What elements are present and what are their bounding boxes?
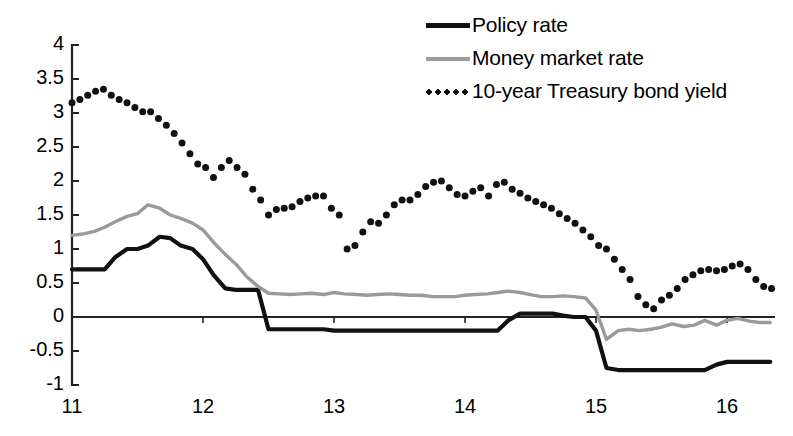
data-point: [84, 92, 91, 99]
legend-item-policy-rate: Policy rate: [424, 8, 784, 41]
data-point: [320, 192, 327, 199]
data-point: [336, 212, 343, 219]
data-point: [351, 242, 358, 249]
y-axis-tick-label: 2: [53, 168, 64, 191]
data-point: [249, 186, 256, 193]
x-axis-tick-label: 15: [582, 395, 610, 418]
data-point: [210, 174, 217, 181]
data-point: [155, 115, 162, 122]
data-point: [139, 108, 146, 115]
data-point: [744, 266, 751, 273]
data-point: [721, 266, 728, 273]
data-point: [265, 212, 272, 219]
data-point: [383, 212, 390, 219]
solid-gray-line-swatch: [424, 50, 472, 66]
data-point: [524, 195, 531, 202]
data-point: [100, 86, 107, 93]
data-point: [124, 99, 131, 106]
data-point: [179, 139, 186, 146]
legend-label-money-market-rate: Money market rate: [472, 46, 644, 70]
data-point: [304, 195, 311, 202]
data-point: [658, 297, 665, 304]
data-point: [422, 183, 429, 190]
data-point: [579, 226, 586, 233]
data-point: [760, 283, 767, 290]
data-point: [689, 271, 696, 278]
data-point: [414, 191, 421, 198]
y-axis-tick-label: 0: [53, 304, 64, 327]
data-point: [454, 191, 461, 198]
x-axis-tick-label: 13: [320, 395, 348, 418]
data-point: [752, 276, 759, 283]
data-point: [462, 192, 469, 199]
data-point: [281, 205, 288, 212]
data-point: [328, 205, 335, 212]
data-point: [564, 215, 571, 222]
data-point: [289, 203, 296, 210]
data-point: [147, 108, 154, 115]
chart-legend: Policy rate Money market rate 10-year Tr…: [424, 8, 784, 107]
y-axis-tick-label: 4: [53, 32, 64, 55]
data-point: [548, 205, 555, 212]
y-axis-tick-label: 3: [53, 100, 64, 123]
data-point: [438, 178, 445, 185]
legend-item-treasury-yield: 10-year Treasury bond yield: [424, 74, 784, 107]
data-point: [532, 198, 539, 205]
data-point: [697, 267, 704, 274]
y-axis-tick-label: -0.5: [30, 338, 64, 361]
data-point: [729, 263, 736, 270]
data-point: [430, 179, 437, 186]
data-point: [296, 198, 303, 205]
data-point: [705, 266, 712, 273]
x-axis-tick-label: 14: [451, 395, 479, 418]
data-point: [650, 305, 657, 312]
data-point: [674, 285, 681, 292]
legend-item-money-market-rate: Money market rate: [424, 41, 784, 74]
series-money-market-rate-line: [72, 205, 770, 340]
x-axis-tick-label: 12: [189, 395, 217, 418]
dotted-line-swatch: [424, 83, 472, 99]
data-point: [713, 267, 720, 274]
solid-thick-line-swatch: [424, 17, 472, 33]
data-point: [595, 242, 602, 249]
series-policy-rate-line: [72, 237, 770, 370]
data-point: [344, 246, 351, 253]
legend-label-treasury-yield: 10-year Treasury bond yield: [472, 79, 727, 103]
data-point: [234, 164, 241, 171]
data-point: [642, 301, 649, 308]
data-point: [540, 201, 547, 208]
data-point: [202, 164, 209, 171]
data-point: [517, 190, 524, 197]
data-point: [391, 201, 398, 208]
x-axis-tick-label: 16: [713, 395, 741, 418]
data-point: [399, 197, 406, 204]
data-point: [226, 157, 233, 164]
data-point: [257, 197, 264, 204]
data-point: [485, 192, 492, 199]
data-point: [619, 266, 626, 273]
data-point: [186, 150, 193, 157]
data-point: [737, 260, 744, 267]
data-point: [69, 99, 76, 106]
data-point: [682, 276, 689, 283]
data-point: [163, 122, 170, 129]
data-point: [76, 96, 83, 103]
data-point: [116, 96, 123, 103]
data-point: [768, 285, 775, 292]
data-point: [241, 171, 248, 178]
data-point: [556, 210, 563, 217]
data-point: [666, 292, 673, 299]
data-point: [603, 246, 610, 253]
data-point: [509, 186, 516, 193]
data-point: [375, 220, 382, 227]
data-point: [634, 293, 641, 300]
data-point: [194, 161, 201, 168]
data-point: [627, 276, 634, 283]
series-treasury-yield-dots: [69, 86, 776, 313]
y-axis-tick-label: 3.5: [36, 66, 64, 89]
y-axis-tick-label: 0.5: [36, 270, 64, 293]
data-point: [312, 192, 319, 199]
data-point: [587, 233, 594, 240]
data-point: [171, 130, 178, 137]
data-point: [367, 218, 374, 225]
